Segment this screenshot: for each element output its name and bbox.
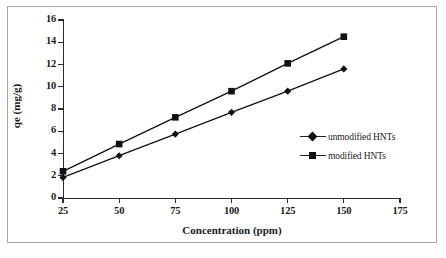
data-point-square xyxy=(284,60,291,67)
data-point-square xyxy=(172,114,179,121)
data-point-diamond xyxy=(284,88,291,95)
data-point-square xyxy=(116,141,123,148)
data-point-square xyxy=(341,33,348,40)
data-point-diamond xyxy=(228,109,235,116)
y-axis-title: qe (mg/g) xyxy=(10,66,22,146)
figure-page: 0246810121416 255075100125150175 Concent… xyxy=(0,0,446,258)
legend-label: unmodified HNTs xyxy=(326,132,395,142)
chart-plot-area: 0246810121416 255075100125150175 Concent… xyxy=(0,0,446,258)
legend-marker-square-icon xyxy=(300,150,326,162)
data-point-square xyxy=(228,88,235,95)
legend-marker-diamond-icon xyxy=(300,131,326,143)
data-point-diamond xyxy=(172,130,179,137)
x-axis-title: Concentration (ppm) xyxy=(63,224,401,236)
data-point-square xyxy=(60,168,67,175)
legend-label: modified HNTs xyxy=(326,151,386,161)
data-point-diamond xyxy=(116,152,123,159)
legend-item-modified-hnts: modified HNTs xyxy=(300,146,428,165)
data-point-diamond xyxy=(340,65,347,72)
legend-item-unmodified-hnts: unmodified HNTs xyxy=(300,127,428,146)
chart-legend: unmodified HNTs modified HNTs xyxy=(300,127,428,165)
data-point-diamond xyxy=(59,174,66,181)
